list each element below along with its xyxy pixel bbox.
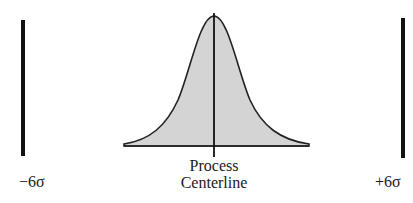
centerline-label-line1: Process: [164, 157, 264, 174]
centerline-label-line2: Centerline: [164, 174, 264, 191]
plus-six-sigma-label: +6σ: [375, 173, 401, 190]
lower-limit-bar: [21, 20, 25, 156]
normal-distribution-curve: [124, 16, 309, 146]
upper-limit-bar: [401, 18, 405, 158]
minus-six-sigma-label: −6σ: [19, 173, 45, 190]
centerline-label: Process Centerline: [164, 157, 264, 191]
